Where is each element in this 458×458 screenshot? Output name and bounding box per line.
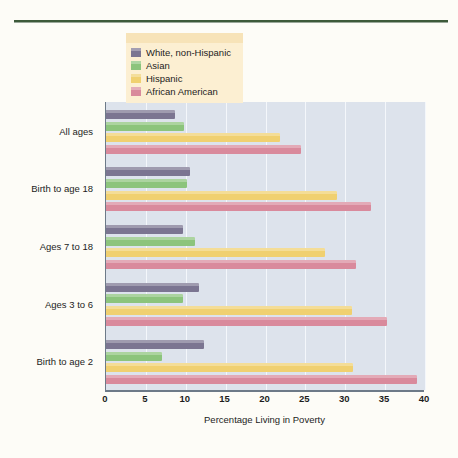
x-axis-line — [105, 390, 424, 392]
bar — [106, 133, 280, 142]
y-axis-label: Ages 7 to 18 — [40, 241, 93, 252]
legend-item[interactable]: Hispanic — [131, 72, 238, 84]
y-axis-label: Birth to age 18 — [31, 183, 93, 194]
bar — [106, 145, 301, 154]
legend-item-label: African American — [146, 86, 218, 97]
y-axis-label: Ages 3 to 6 — [45, 298, 93, 309]
legend-item[interactable]: Asian — [131, 59, 238, 71]
bar — [106, 294, 183, 303]
y-axis-labels: All agesBirth to age 18Ages 7 to 18Ages … — [0, 102, 99, 390]
x-axis-title: Percentage Living in Poverty — [105, 414, 424, 425]
x-tick-label: 20 — [259, 393, 270, 404]
y-axis-label: Birth to age 2 — [36, 356, 93, 367]
x-tick-label: 15 — [219, 393, 230, 404]
bar — [106, 283, 199, 292]
gridline-40 — [425, 102, 426, 390]
legend-swatch-icon — [131, 74, 141, 83]
bar-group — [106, 217, 425, 275]
bar — [106, 179, 187, 188]
bar-group — [106, 275, 425, 333]
legend-items: White, non-HispanicAsianHispanicAfrican … — [126, 43, 243, 103]
legend-item[interactable]: African American — [131, 85, 238, 97]
legend: White, non-HispanicAsianHispanicAfrican … — [126, 33, 243, 103]
legend-top-strip — [126, 33, 243, 43]
bar-group — [106, 160, 425, 218]
x-tick-label: 35 — [379, 393, 390, 404]
legend-swatch-icon — [131, 61, 141, 70]
bar — [106, 110, 175, 119]
bar — [106, 340, 204, 349]
x-tick-label: 40 — [419, 393, 430, 404]
poverty-bar-chart-figure: All agesBirth to age 18Ages 7 to 18Ages … — [0, 0, 458, 458]
x-tick-label: 5 — [142, 393, 147, 404]
bar — [106, 122, 184, 131]
x-tick-label: 10 — [179, 393, 190, 404]
x-tick-label: 0 — [102, 393, 107, 404]
legend-item[interactable]: White, non-Hispanic — [131, 46, 238, 58]
legend-swatch-icon — [131, 87, 141, 96]
legend-swatch-icon — [131, 48, 141, 57]
bar — [106, 375, 417, 384]
legend-item-label: Hispanic — [146, 73, 182, 84]
top-rule-shadow — [14, 22, 448, 23]
bar — [106, 248, 325, 257]
x-axis-tick-labels: 0510152025303540 — [0, 393, 458, 409]
bar — [106, 306, 352, 315]
bar-group — [106, 102, 425, 160]
y-axis-label: All ages — [59, 125, 93, 136]
x-tick-label: 30 — [339, 393, 350, 404]
bar — [106, 167, 190, 176]
bar — [106, 317, 387, 326]
bar — [106, 260, 356, 269]
bar — [106, 363, 353, 372]
x-tick-label: 25 — [299, 393, 310, 404]
bar — [106, 202, 371, 211]
plot-area — [105, 102, 425, 390]
bar — [106, 191, 337, 200]
bar — [106, 237, 195, 246]
bar-group — [106, 332, 425, 390]
legend-item-label: Asian — [146, 60, 170, 71]
bar — [106, 352, 162, 361]
legend-item-label: White, non-Hispanic — [146, 47, 231, 58]
bar — [106, 225, 183, 234]
